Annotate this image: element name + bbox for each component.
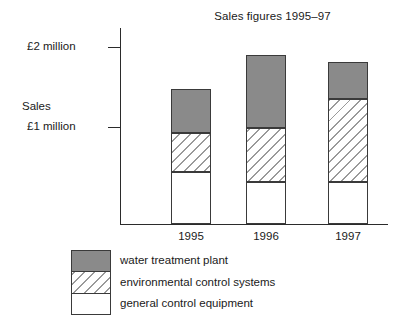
legend-swatch-environmental-control-systems: [71, 272, 111, 294]
legend-labels: water treatment plant environmental cont…: [120, 250, 380, 315]
legend-label-water-treatment-plant: water treatment plant: [120, 250, 380, 272]
legend-label-general-control-equipment: general control equipment: [120, 293, 380, 315]
bar-segment-1995-environmental-control-systems: [171, 133, 211, 172]
bar-segment-1997-environmental-control-systems: [328, 99, 368, 182]
x-tick-label-1995: 1995: [161, 230, 221, 242]
x-tick-label-1997: 1997: [318, 230, 378, 242]
x-tick-label-1996: 1996: [236, 230, 296, 242]
bar-segment-1996-environmental-control-systems: [246, 128, 286, 182]
legend-swatches: [71, 250, 111, 315]
bar-segment-1996-general-control-equipment: [246, 182, 286, 224]
bar-segment-1997-general-control-equipment: [328, 182, 368, 224]
bar-segment-1997-water-treatment-plant: [328, 62, 368, 99]
bar-segment-1996-water-treatment-plant: [246, 55, 286, 128]
legend-label-environmental-control-systems: environmental control systems: [120, 272, 380, 294]
bar-segment-1995-general-control-equipment: [171, 172, 211, 224]
legend-swatch-water-treatment-plant: [71, 250, 111, 272]
legend-swatch-general-control-equipment: [71, 293, 111, 315]
bar-segment-1995-water-treatment-plant: [171, 89, 211, 133]
sales-bar-chart: Sales figures 1995–97 £2 million Sales £…: [0, 0, 409, 332]
